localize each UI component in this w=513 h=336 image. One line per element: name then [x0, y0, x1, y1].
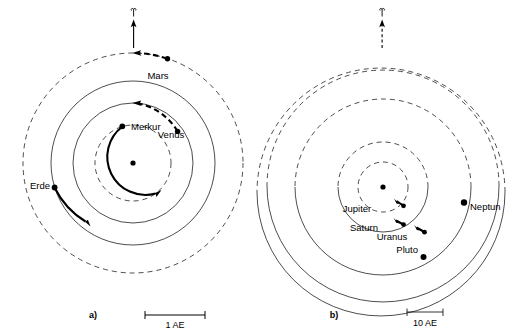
- planet-dot-pluto: [421, 254, 427, 260]
- planet-dot-jupiter: [401, 203, 406, 208]
- label-pluto: Pluto: [396, 244, 418, 255]
- planet-dot-neptun: [461, 199, 467, 205]
- solar-system-orbit-diagram: Mars Venus Merkur Erde a): [0, 0, 513, 336]
- panel-label-a: a): [89, 310, 97, 320]
- planet-dot-uranus: [422, 230, 427, 235]
- label-uranus: Uranus: [377, 231, 408, 242]
- label-venus: Venus: [158, 129, 185, 140]
- label-merkur: Merkur: [131, 121, 161, 132]
- planet-dot-mars: [165, 56, 170, 61]
- label-saturn: Saturn: [350, 222, 378, 233]
- sun-marker-panel-a: [130, 160, 135, 165]
- label-jupiter: Jupiter: [343, 203, 372, 214]
- scale-label-10ae: 10 AE: [413, 318, 437, 328]
- label-neptun: Neptun: [470, 201, 501, 212]
- sun-marker-panel-b: [380, 184, 385, 189]
- planet-dot-erde: [52, 185, 58, 191]
- planet-dot-saturn: [401, 222, 406, 227]
- label-erde: Erde: [30, 180, 50, 191]
- label-mars: Mars: [147, 70, 168, 81]
- panel-label-b: b): [330, 310, 339, 320]
- scale-label-1ae: 1 AE: [165, 320, 184, 330]
- planet-dot-merkur: [119, 123, 125, 129]
- figure-background: [0, 0, 513, 336]
